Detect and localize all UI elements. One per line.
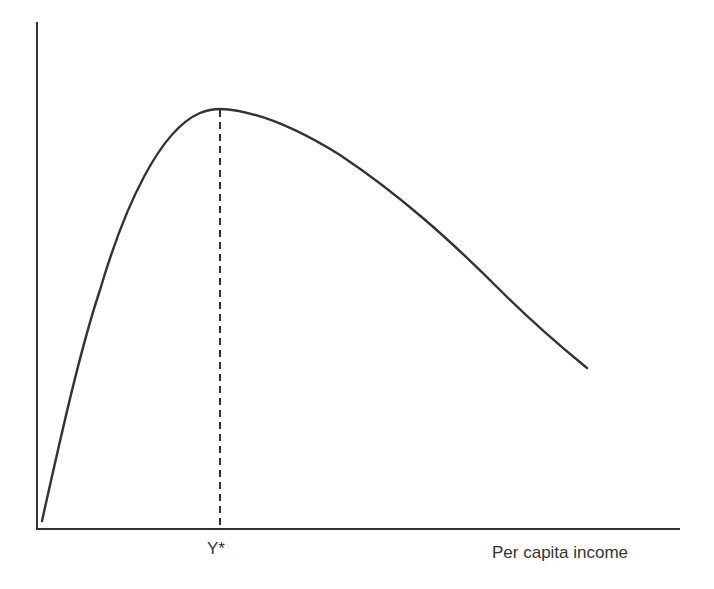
x-axis-label: Per capita income [492,543,628,563]
inverted-u-curve [42,109,587,521]
x-tick-label-y-star: Y* [207,539,225,559]
chart-canvas [0,0,714,589]
